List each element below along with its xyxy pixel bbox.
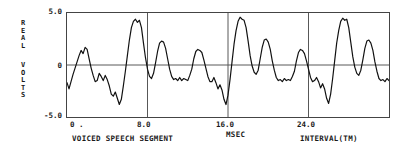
y-caption-real-letters: REAL	[16, 20, 30, 50]
chart-caption-left: VOICED SPEECH SEGMENT	[72, 134, 173, 143]
waveform-svg	[67, 13, 389, 117]
y-tick-label-zero: 0	[34, 62, 62, 70]
x-tick-label-16: 16.0	[216, 120, 234, 129]
y-axis-caption-volts: VOLTS	[16, 62, 30, 100]
y-tick-label-max: 5.0	[34, 8, 62, 16]
plot-area	[66, 12, 390, 118]
chart-caption-right: INTERVAL(TM)	[300, 134, 358, 143]
caption-letter: L	[16, 43, 30, 51]
y-axis-tick-labels: 5.0 0 -5.0	[30, 0, 62, 156]
x-tick-label-24: 24.0	[297, 120, 315, 129]
caption-letter: S	[16, 92, 30, 100]
x-tick-label-0: 0 .	[70, 120, 84, 129]
y-tick-label-min: -5.0	[34, 112, 62, 120]
y-axis-caption-real: REAL	[16, 20, 30, 50]
y-caption-volts-letters: VOLTS	[16, 62, 30, 100]
chart-screenshot: REAL VOLTS 5.0 0 -5.0 0 . 8.0 16.0 24.0 …	[0, 0, 405, 156]
x-axis-unit-label: MSEC	[226, 130, 245, 139]
x-tick-label-8: 8.0	[137, 120, 151, 129]
